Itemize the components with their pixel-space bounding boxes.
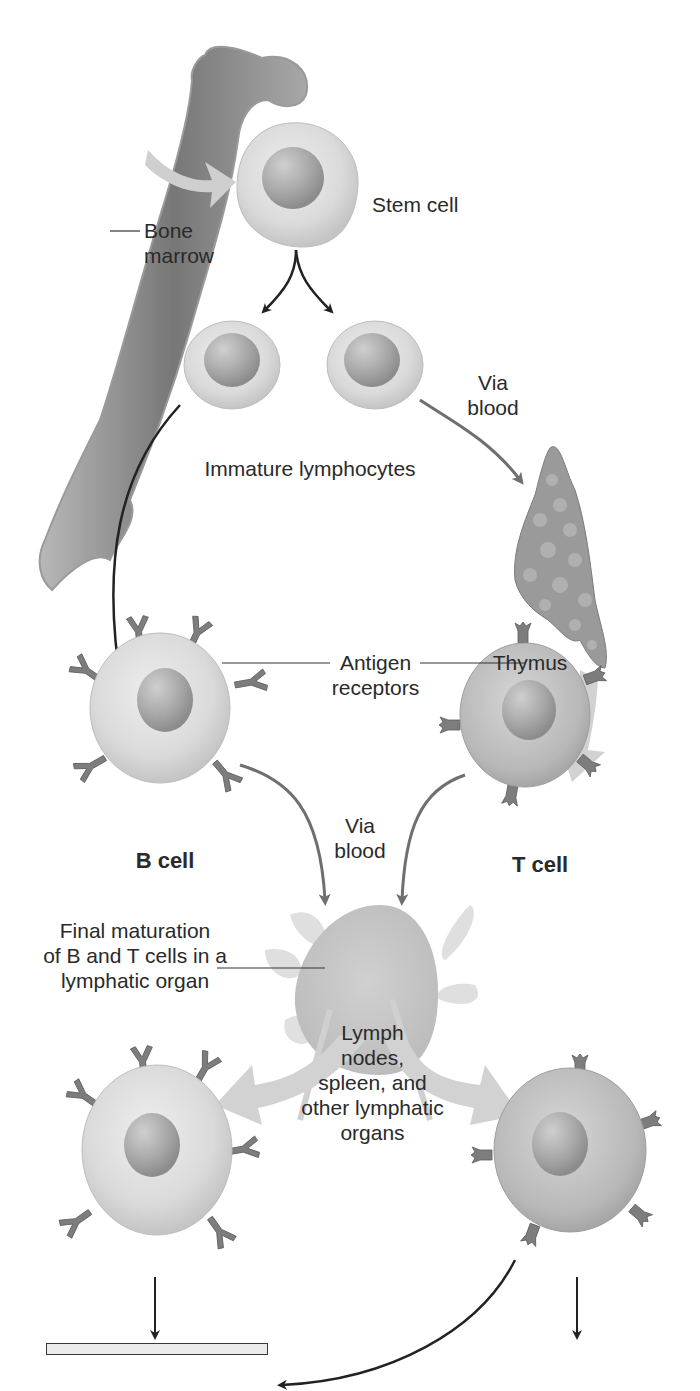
b-cell bbox=[67, 614, 268, 793]
arrow-bcell-to-organ bbox=[240, 765, 325, 900]
label-lymph-organs: Lymph nodes, spleen, and other lymphatic… bbox=[290, 1020, 455, 1145]
stem-cell bbox=[237, 123, 358, 247]
label-t-cell: T cell bbox=[495, 852, 585, 877]
bone-illustration bbox=[40, 47, 307, 590]
stem-split-arrows bbox=[265, 250, 330, 310]
label-via-blood-top: Via blood bbox=[458, 370, 528, 420]
label-thymus: Thymus bbox=[480, 650, 580, 675]
immature-lymphocyte-2 bbox=[327, 321, 423, 409]
immature-lymphocyte-1 bbox=[184, 321, 280, 409]
arrow-tcell-to-organ bbox=[402, 775, 465, 900]
mature-t-cell bbox=[471, 1054, 662, 1247]
arrow-tcell-to-humoral bbox=[282, 1260, 515, 1385]
label-b-cell: B cell bbox=[120, 848, 210, 873]
mature-b-cell bbox=[57, 1045, 260, 1250]
label-final-maturation: Final maturation of B and T cells in a l… bbox=[30, 918, 240, 993]
label-immature-lymphocytes: Immature lymphocytes bbox=[180, 456, 440, 481]
label-antigen-receptors: Antigen receptors bbox=[318, 650, 433, 700]
label-stem-cell: Stem cell bbox=[372, 192, 458, 217]
humoral-response-box bbox=[46, 1343, 268, 1355]
label-via-blood-mid: Via blood bbox=[325, 813, 395, 863]
label-bone-marrow: Bone marrow bbox=[144, 218, 214, 268]
